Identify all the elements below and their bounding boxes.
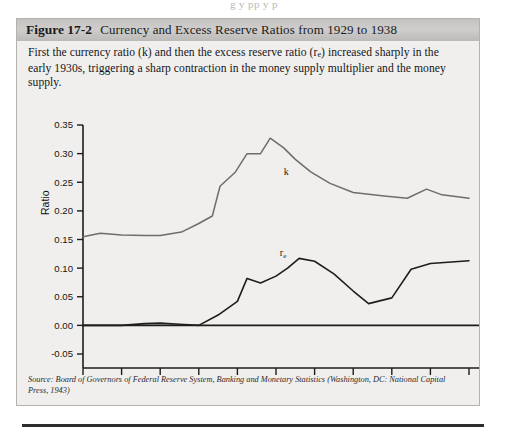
series-label-k: k bbox=[284, 166, 289, 177]
y-tick-label: -0.05 bbox=[51, 348, 73, 359]
series-line-re bbox=[83, 258, 469, 325]
figure-header: Figure 17-2 Currency and Excess Reserve … bbox=[17, 19, 479, 41]
y-tick-label: 0.05 bbox=[54, 291, 73, 302]
clipped-top-text: g y pp y p bbox=[0, 0, 508, 13]
y-tick-label: 0.25 bbox=[54, 177, 73, 188]
chart-plot-area: 0.350.300.250.200.150.100.050.00-0.05192… bbox=[17, 109, 479, 381]
figure-number: Figure 17-2 bbox=[26, 22, 92, 38]
y-tick-label: 0.30 bbox=[54, 148, 73, 159]
figure-caption: First the currency ratio (k) and then th… bbox=[17, 41, 479, 93]
page-bottom-rule bbox=[22, 424, 484, 427]
figure-source: Source: Board of Governors of Federal Re… bbox=[28, 375, 467, 396]
line-chart: 0.350.300.250.200.150.100.050.00-0.05192… bbox=[17, 109, 479, 381]
y-tick-label: 0.35 bbox=[54, 119, 73, 130]
source-suffix: ) bbox=[67, 386, 70, 395]
figure-title: Currency and Excess Reserve Ratios from … bbox=[100, 22, 397, 38]
figure-panel: Figure 17-2 Currency and Excess Reserve … bbox=[16, 18, 480, 406]
y-tick-label: 0.20 bbox=[54, 205, 73, 216]
caption-part-1: First the currency ratio (k) and then th… bbox=[28, 46, 317, 59]
y-tick-label: 0.00 bbox=[54, 320, 73, 331]
y-tick-label: 0.15 bbox=[54, 234, 73, 245]
source-body: Board of Governors of Federal Reserve Sy… bbox=[54, 375, 330, 384]
series-line-k bbox=[83, 138, 469, 236]
source-prefix: Source: bbox=[28, 375, 54, 384]
y-tick-label: 0.10 bbox=[54, 263, 73, 274]
series-label-re: re bbox=[280, 247, 286, 260]
